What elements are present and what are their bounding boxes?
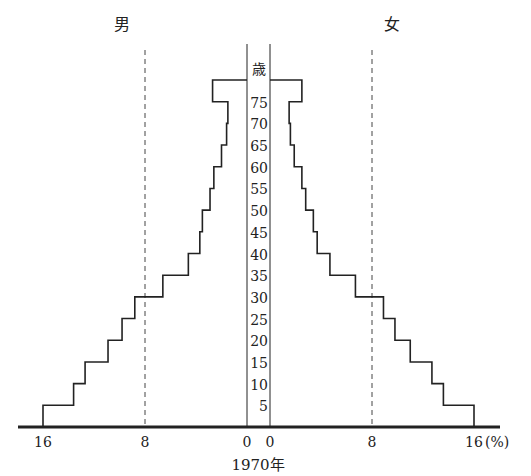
age-label: 25 — [250, 312, 268, 328]
x-tick-left: 8 — [141, 434, 150, 450]
age-unit-label: 歳 — [252, 61, 266, 77]
age-label: 40 — [250, 247, 268, 263]
female-label: 女 — [384, 15, 400, 34]
x-tick-right: 0 — [266, 434, 275, 450]
age-column: 歳51015202530354045505560657075 — [247, 44, 270, 427]
age-label: 35 — [250, 268, 268, 284]
age-label: 70 — [250, 116, 268, 132]
x-unit-label: (%) — [485, 434, 509, 450]
age-label: 15 — [250, 355, 268, 371]
age-label: 55 — [250, 181, 268, 197]
age-label: 45 — [250, 225, 268, 241]
x-tick-right: 8 — [368, 434, 377, 450]
age-label: 65 — [250, 138, 268, 154]
x-tick-left: 0 — [243, 434, 252, 450]
age-label: 50 — [250, 203, 268, 219]
x-tick-right: 16 — [465, 434, 483, 450]
age-label: 75 — [250, 95, 268, 111]
age-label: 60 — [250, 160, 268, 176]
chart-title-year: 1970年 — [231, 456, 284, 474]
age-label: 5 — [259, 398, 268, 414]
age-label: 10 — [250, 377, 268, 393]
male-label: 男 — [114, 15, 130, 34]
age-label: 30 — [250, 290, 268, 306]
age-label: 20 — [250, 333, 268, 349]
x-tick-left: 16 — [34, 434, 52, 450]
x-axis: 16800816(%) — [18, 427, 509, 450]
population-pyramid-chart: 歳51015202530354045505560657075 16800816(… — [0, 0, 531, 476]
